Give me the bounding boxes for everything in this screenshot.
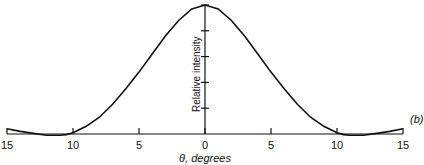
- svg-text:5: 5: [268, 139, 274, 151]
- svg-text:15: 15: [397, 139, 409, 151]
- chart: 15105051015 Relative intensity θ, degree…: [0, 0, 424, 165]
- y-axis-label: Relative intensity: [191, 36, 202, 112]
- x-axis-label: θ, degrees: [179, 152, 231, 164]
- svg-text:15: 15: [1, 139, 13, 151]
- svg-text:10: 10: [67, 139, 79, 151]
- panel-label: (b): [410, 113, 424, 125]
- svg-text:5: 5: [136, 139, 142, 151]
- svg-text:10: 10: [331, 139, 343, 151]
- svg-text:0: 0: [202, 139, 208, 151]
- plot: 15105051015 Relative intensity θ, degree…: [0, 0, 424, 165]
